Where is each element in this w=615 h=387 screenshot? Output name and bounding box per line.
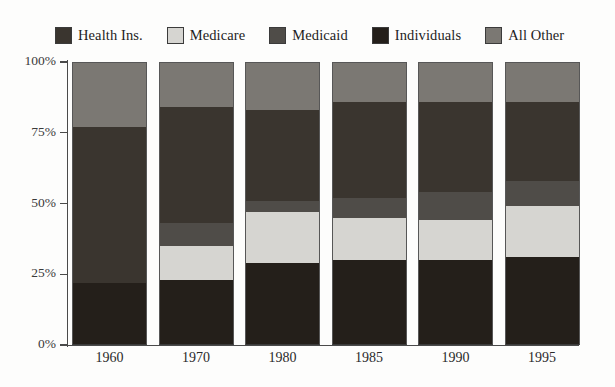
bar-1985[interactable] xyxy=(332,62,407,345)
bar-segment-1990-medicare[interactable] xyxy=(418,220,493,260)
bar-1995[interactable] xyxy=(505,62,580,345)
bar-segment-1985-individuals[interactable] xyxy=(332,260,407,345)
bar-segment-1995-all-other[interactable] xyxy=(505,62,580,102)
bar-segment-1990-medicaid[interactable] xyxy=(418,192,493,220)
bar-segment-1980-medicaid[interactable] xyxy=(245,201,320,212)
bar-segment-1960-all-other[interactable] xyxy=(72,62,147,127)
bar-segment-1985-health-ins[interactable] xyxy=(332,102,407,198)
bar-segment-1980-individuals[interactable] xyxy=(245,263,320,345)
bar-1970[interactable] xyxy=(159,62,234,345)
bar-1990[interactable] xyxy=(418,62,493,345)
bar-1960[interactable] xyxy=(72,62,147,345)
bar-segment-1970-individuals[interactable] xyxy=(159,280,234,345)
bar-segment-1980-health-ins[interactable] xyxy=(245,110,320,201)
bar-segment-1970-medicaid[interactable] xyxy=(159,223,234,246)
bar-segment-1980-medicare[interactable] xyxy=(245,212,320,263)
stacked-bar-chart: 100%75%50%25%0% 196019701980198519901995 xyxy=(0,0,615,387)
bar-segment-1995-medicare[interactable] xyxy=(505,206,580,257)
bar-segment-1960-health-ins[interactable] xyxy=(72,127,147,283)
plot-area xyxy=(0,0,615,387)
bar-segment-1995-individuals[interactable] xyxy=(505,257,580,345)
bar-segment-1990-health-ins[interactable] xyxy=(418,102,493,193)
bar-segment-1985-all-other[interactable] xyxy=(332,62,407,102)
bar-segment-1995-medicaid[interactable] xyxy=(505,181,580,206)
bar-segment-1995-health-ins[interactable] xyxy=(505,102,580,181)
bar-segment-1985-medicare[interactable] xyxy=(332,218,407,260)
bar-segment-1980-all-other[interactable] xyxy=(245,62,320,110)
bar-1980[interactable] xyxy=(245,62,320,345)
bar-segment-1990-all-other[interactable] xyxy=(418,62,493,102)
bar-segment-1960-individuals[interactable] xyxy=(72,283,147,345)
bar-segment-1970-medicare[interactable] xyxy=(159,246,234,280)
bar-segment-1970-health-ins[interactable] xyxy=(159,107,234,223)
bar-segment-1970-all-other[interactable] xyxy=(159,62,234,107)
bar-segment-1990-individuals[interactable] xyxy=(418,260,493,345)
chart-page: Health Ins.MedicareMedicaidIndividualsAl… xyxy=(0,0,615,387)
bar-segment-1985-medicaid[interactable] xyxy=(332,198,407,218)
